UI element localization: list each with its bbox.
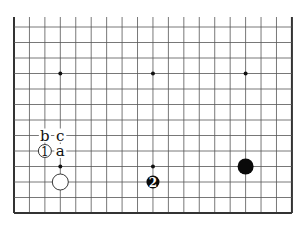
stone-number: 2 [149,176,157,190]
black-stone [238,159,254,175]
marker-a: a [56,142,65,160]
star-point [58,72,62,76]
star-point [151,165,155,169]
go-board-diagram: 12 bca [0,0,306,231]
star-point [244,72,248,76]
star-point [58,165,62,169]
marker-b: b [40,127,50,145]
stone-number: 1 [41,145,49,159]
star-point [151,72,155,76]
white-stone-1: 1 [38,145,51,159]
black-stone-2: 2 [146,176,159,190]
white-stone [52,174,68,190]
